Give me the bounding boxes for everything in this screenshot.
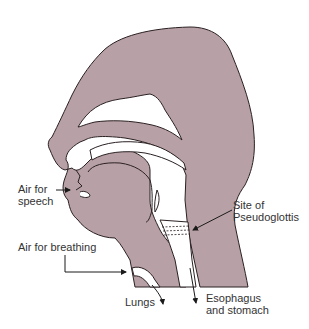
label-line: Air for — [18, 183, 53, 195]
breathing-arrow — [65, 255, 126, 272]
label-line: speech — [18, 195, 53, 207]
esophagus-and-stomach-label: Esophagus and stomach — [206, 292, 269, 316]
label-line: and stomach — [206, 304, 269, 316]
label-line: Site of — [233, 199, 299, 211]
air-for-speech-label: Air for speech — [18, 183, 53, 207]
air-for-breathing-label: Air for breathing — [18, 241, 96, 253]
site-of-pseudoglottis-label: Site of Pseudoglottis — [233, 199, 299, 223]
epiglottis — [155, 190, 159, 212]
label-line: Esophagus — [206, 292, 269, 304]
laryngectomy-airflow-diagram — [0, 0, 309, 329]
lungs-label: Lungs — [125, 296, 155, 308]
label-line: Pseudoglottis — [233, 211, 299, 223]
